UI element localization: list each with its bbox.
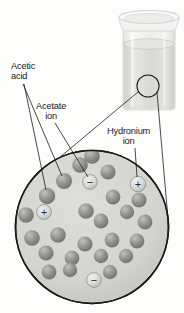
- acetic-acid-molecule: [100, 164, 115, 179]
- acetic-acid-molecule: [119, 249, 133, 263]
- acetic-acid-molecule: [50, 227, 66, 243]
- acetic-acid-molecule: [78, 203, 94, 219]
- hydronium-ion-particle: +: [130, 176, 146, 192]
- acetate-ion-particle: −: [87, 273, 102, 288]
- acetic-acid-molecule: [39, 188, 55, 204]
- acetate-charge-symbol: −: [91, 274, 97, 286]
- acetic-acid-molecule: [38, 245, 53, 260]
- acetate-ion-particle: −: [83, 175, 98, 190]
- acetic-acid-molecule: [106, 190, 121, 205]
- label-hydronium-ion: Hydronium ion: [107, 126, 150, 147]
- hydronium-ion-particle: +: [37, 205, 52, 220]
- acetate-charge-symbol: −: [87, 176, 93, 188]
- beaker-highlight-right: [163, 33, 165, 107]
- beaker-mouth-inner: [124, 14, 174, 24]
- hydronium-charge-symbol: +: [135, 178, 141, 190]
- acetic-acid-molecule: [131, 192, 146, 207]
- acetic-acid-molecule: [18, 207, 34, 223]
- leader-acetic-acid-2: [24, 84, 46, 190]
- acetic-acid-molecule: [138, 215, 153, 230]
- acetic-acid-molecule: [94, 249, 108, 263]
- acetic-acid-molecule: [24, 230, 40, 246]
- acetic-acid-molecule: [77, 236, 92, 251]
- acetic-acid-solution-figure: + + − −: [0, 0, 184, 313]
- diagram-canvas: + + − −: [0, 0, 184, 313]
- leader-acetic-acid-1: [23, 84, 62, 176]
- label-acetate-ion: Acetate ion: [36, 101, 66, 122]
- acetic-acid-molecule: [63, 263, 77, 277]
- acetic-acid-molecule: [42, 265, 57, 280]
- acetic-acid-molecule: [94, 214, 109, 229]
- beaker: [119, 11, 179, 111]
- acetic-acid-molecule: [103, 265, 117, 279]
- acetic-acid-molecule: [105, 233, 120, 248]
- acetic-acid-molecule: [72, 157, 88, 173]
- acetic-acid-molecule: [130, 234, 145, 249]
- label-acetic-acid: Acetic acid: [11, 61, 35, 82]
- acetic-acid-molecule: [56, 173, 72, 189]
- hydronium-charge-symbol: +: [41, 206, 47, 218]
- magnified-solution-view: + + − −: [16, 148, 169, 303]
- acetic-acid-molecule: [120, 205, 134, 219]
